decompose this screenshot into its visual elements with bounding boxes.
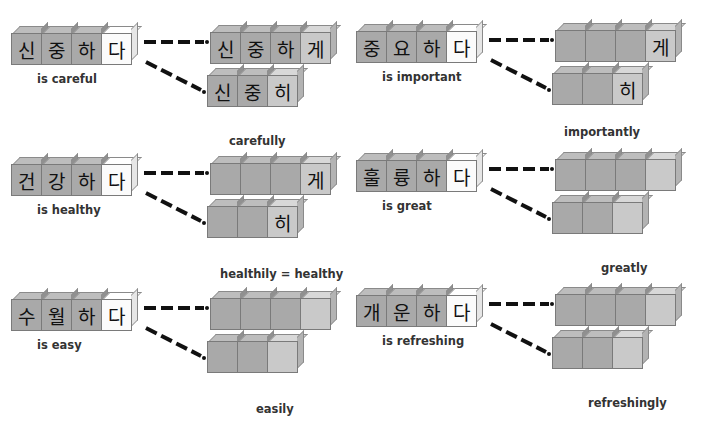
syllable-text: 히 (267, 206, 298, 238)
syllable-block (300, 298, 330, 329)
syllable-text: 중 (237, 75, 268, 107)
conversion-panel-3: 훌륭하다 is great greatly (356, 153, 696, 283)
syllable-block: 신 (210, 32, 240, 63)
syllable-block (555, 159, 585, 190)
syllable-text (552, 73, 583, 105)
syllable-block: 중 (240, 32, 270, 63)
syllable-text (582, 73, 613, 105)
hi-form-blocks: 신중히 (207, 68, 297, 106)
hi-form-blocks: 히 (552, 66, 642, 104)
syllable-block (555, 30, 585, 61)
syllable-text (210, 298, 241, 330)
syllable-block: 히 (267, 206, 297, 237)
syllable-block (582, 73, 612, 104)
syllable-text (240, 163, 271, 195)
syllable-block (615, 30, 645, 61)
hi-form-blocks (552, 195, 642, 233)
syllable-block (210, 163, 240, 194)
syllable-block (645, 294, 675, 325)
adverb-meaning-label: refreshingly (588, 396, 667, 410)
conversion-panel-5: 개운하다 is refreshing refreshingly (356, 288, 696, 418)
adverb-meaning-label: importantly (564, 125, 640, 139)
syllable-block: 게 (300, 163, 330, 194)
adverb-meaning-label: easily (256, 402, 294, 416)
syllable-block: 신 (207, 75, 237, 106)
ge-form-blocks: 게 (210, 156, 330, 194)
syllable-block (240, 298, 270, 329)
syllable-block (207, 341, 237, 372)
syllable-text (615, 159, 646, 191)
syllable-text (552, 202, 583, 234)
syllable-block: 게 (300, 32, 330, 63)
syllable-text: 게 (645, 30, 676, 62)
syllable-text (555, 159, 586, 191)
syllable-text (270, 163, 301, 195)
syllable-block (552, 202, 582, 233)
syllable-text (645, 294, 676, 326)
syllable-block (552, 73, 582, 104)
syllable-text (585, 294, 616, 326)
syllable-text: 히 (612, 73, 643, 105)
ge-form-blocks: 게 (555, 23, 675, 61)
syllable-text (210, 163, 241, 195)
conversion-panel-4: 수월하다 is easy easily (11, 292, 351, 422)
syllable-block (270, 163, 300, 194)
syllable-text: 신 (210, 32, 241, 64)
syllable-block (237, 341, 267, 372)
ge-form-blocks (555, 152, 675, 190)
adverb-meaning-label: carefully (229, 134, 286, 148)
syllable-block (552, 337, 582, 368)
syllable-text (237, 206, 268, 238)
syllable-block (585, 294, 615, 325)
adverb-meaning-label: healthily = healthy (220, 267, 343, 281)
syllable-text (582, 202, 613, 234)
syllable-block (615, 294, 645, 325)
syllable-block (582, 337, 612, 368)
syllable-text (582, 337, 613, 369)
syllable-text: 신 (207, 75, 238, 107)
syllable-text (270, 298, 301, 330)
syllable-text: 중 (240, 32, 271, 64)
syllable-block (585, 159, 615, 190)
hi-form-blocks (552, 330, 642, 368)
syllable-block (237, 206, 267, 237)
syllable-block (582, 202, 612, 233)
syllable-block (585, 30, 615, 61)
syllable-text (615, 294, 646, 326)
syllable-text (585, 30, 616, 62)
conversion-panel-2: 건강하다 is healthy 게 히 healthily = healthy (11, 157, 351, 287)
hi-form-blocks: 히 (207, 199, 297, 237)
syllable-text (267, 341, 298, 373)
syllable-text (300, 298, 331, 330)
syllable-text (615, 30, 646, 62)
adverb-meaning-label: greatly (601, 261, 647, 275)
syllable-block (270, 298, 300, 329)
syllable-block: 히 (267, 75, 297, 106)
syllable-block (207, 206, 237, 237)
syllable-text (555, 294, 586, 326)
syllable-block (645, 159, 675, 190)
syllable-block (555, 294, 585, 325)
syllable-block (612, 202, 642, 233)
syllable-block: 게 (645, 30, 675, 61)
syllable-block (615, 159, 645, 190)
conversion-panel-0: 신중하다 is careful 신중하게 신중히 carefully (11, 26, 351, 156)
syllable-text (237, 341, 268, 373)
syllable-text (552, 337, 583, 369)
syllable-text: 히 (267, 75, 298, 107)
syllable-text (645, 159, 676, 191)
syllable-text (612, 202, 643, 234)
ge-form-blocks: 신중하게 (210, 25, 330, 63)
syllable-text (585, 159, 616, 191)
ge-form-blocks (555, 287, 675, 325)
syllable-block: 히 (612, 73, 642, 104)
syllable-text (612, 337, 643, 369)
syllable-block (240, 163, 270, 194)
syllable-block: 하 (270, 32, 300, 63)
syllable-block (210, 298, 240, 329)
ge-form-blocks (210, 291, 330, 329)
syllable-text: 게 (300, 163, 331, 195)
syllable-text (555, 30, 586, 62)
syllable-block (267, 341, 297, 372)
syllable-text (207, 341, 238, 373)
